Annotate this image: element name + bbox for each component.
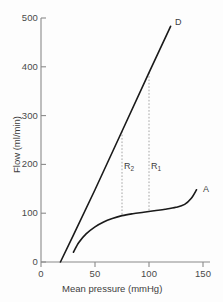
- region-label-r1-subscript: 1: [158, 165, 162, 172]
- region-label-r2: R2: [124, 161, 134, 171]
- curve-a: [73, 190, 196, 252]
- x-tick-label-50: 50: [83, 268, 107, 279]
- x-tick-label-100: 100: [137, 268, 161, 279]
- x-axis-title: Mean pressure (mmHg): [62, 283, 162, 294]
- y-tick-label-100: 100: [14, 207, 38, 218]
- chart-figure: 500 400 300 200 100 0 0 50 100 150 Flow …: [0, 0, 223, 302]
- y-tick-label-500: 500: [14, 12, 38, 23]
- x-tick-label-150: 150: [191, 268, 215, 279]
- y-tick-label-0: 0: [14, 256, 38, 267]
- y-axis-title: Flow (ml/min): [11, 116, 22, 173]
- caption-fragment: [6, 294, 218, 302]
- curve-d: [60, 26, 170, 262]
- y-tick-label-400: 400: [14, 61, 38, 72]
- region-label-r2-subscript: 2: [131, 165, 135, 172]
- x-tick-label-0: 0: [29, 268, 53, 279]
- curve-label-a: A: [203, 184, 209, 194]
- curve-label-d: D: [175, 17, 182, 27]
- region-label-r1-base: R: [151, 161, 158, 171]
- region-label-r2-base: R: [124, 161, 131, 171]
- region-label-r1: R1: [151, 161, 161, 171]
